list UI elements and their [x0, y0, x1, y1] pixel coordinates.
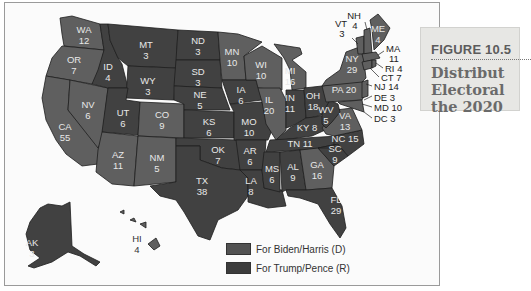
label-dc: DC 3: [374, 113, 396, 124]
label-mi-votes: 16: [285, 76, 296, 87]
label-al-abbr: AL: [287, 161, 299, 172]
dotted-divider: [431, 59, 531, 60]
legend-swatch-biden: [226, 243, 251, 255]
label-nd-votes: 3: [195, 46, 200, 57]
label-ks-votes: 6: [206, 127, 211, 138]
figure-title-line-1: Distribut: [431, 64, 519, 81]
label-ne-votes: 5: [197, 100, 202, 111]
label-az-abbr: AZ: [112, 149, 124, 160]
label-mo-abbr: MO: [241, 116, 256, 127]
label-or-votes: 7: [71, 65, 76, 76]
label-nj: NJ 14: [374, 81, 399, 92]
label-wy-abbr: WY: [140, 75, 156, 86]
label-nh-votes: 4: [352, 20, 357, 31]
figure-number: FIGURE 10.5: [431, 42, 519, 57]
label-wi-abbr: WI: [255, 59, 267, 70]
label-mt-abbr: MT: [139, 39, 153, 50]
label-ut-votes: 6: [120, 118, 125, 129]
legend-item-trump: For Trump/Pence (R): [226, 260, 350, 276]
label-tn: TN 11: [287, 138, 312, 149]
label-tx-votes: 38: [197, 186, 208, 197]
label-ca-abbr: CA: [58, 121, 72, 132]
label-ca-votes: 55: [60, 132, 71, 143]
label-ia-abbr: IA: [237, 84, 247, 95]
label-wi-votes: 10: [256, 70, 267, 81]
label-ms-abbr: MS: [265, 163, 279, 174]
label-ak-abbr: AK: [26, 237, 39, 248]
label-ks-abbr: KS: [203, 116, 216, 127]
label-ga-votes: 16: [312, 170, 323, 181]
label-or-abbr: OR: [67, 54, 81, 65]
label-oh-votes: 18: [308, 101, 319, 112]
label-nv-abbr: NV: [81, 99, 95, 110]
label-hi-votes: 4: [134, 244, 139, 255]
map-legend: For Biden/Harris (D) For Trump/Pence (R): [226, 241, 350, 279]
label-oh-abbr: OH: [306, 90, 320, 101]
legend-swatch-trump: [226, 262, 251, 274]
label-nm-abbr: NM: [150, 152, 165, 163]
label-fl-abbr: FL: [330, 194, 341, 205]
label-sd-votes: 3: [195, 77, 200, 88]
label-pa: PA 20: [332, 84, 357, 95]
label-ar-votes: 6: [247, 156, 252, 167]
label-mo-votes: 10: [244, 127, 255, 138]
label-in-votes: 11: [285, 103, 295, 114]
label-il-votes: 20: [264, 105, 275, 116]
label-nc: NC 15: [332, 133, 359, 144]
legend-item-biden: For Biden/Harris (D): [226, 241, 350, 257]
label-id-abbr: ID: [103, 61, 113, 72]
state-nj: [362, 80, 368, 98]
label-az-votes: 11: [113, 160, 123, 171]
label-hi-abbr: HI: [132, 233, 142, 244]
label-wa-votes: 12: [79, 35, 90, 46]
figure-title-line-2: Electoral: [431, 81, 519, 98]
label-wv-votes: 5: [323, 115, 328, 126]
label-ky: KY 8: [297, 122, 317, 133]
label-tx-abbr: TX: [196, 175, 209, 186]
state-ri: [372, 60, 376, 68]
label-nv-votes: 6: [85, 110, 90, 121]
label-md: MD 10: [374, 102, 402, 113]
label-ga-abbr: GA: [310, 159, 324, 170]
label-wv-abbr: WV: [318, 104, 334, 115]
label-ar-abbr: AR: [243, 145, 256, 156]
label-nd-abbr: ND: [191, 35, 205, 46]
label-ok-votes: 7: [215, 155, 220, 166]
label-il-abbr: IL: [265, 94, 273, 105]
label-ut-abbr: UT: [117, 107, 130, 118]
label-me-votes: 4: [375, 34, 380, 45]
label-id-votes: 4: [105, 72, 110, 83]
label-co-abbr: CO: [155, 109, 169, 120]
label-sc-votes: 9: [332, 154, 337, 165]
label-wa-abbr: WA: [77, 24, 93, 35]
label-la-votes: 8: [248, 186, 253, 197]
label-ny-votes: 29: [347, 64, 358, 75]
label-me-abbr: ME: [371, 23, 385, 34]
legend-label-trump: For Trump/Pence (R): [256, 263, 350, 274]
label-wy-votes: 3: [145, 86, 150, 97]
state-ak: [26, 202, 100, 268]
label-mn-votes: 10: [227, 57, 238, 68]
label-al-votes: 9: [290, 172, 295, 183]
label-mt-votes: 3: [143, 50, 148, 61]
state-hi: [120, 210, 160, 250]
label-ny-abbr: NY: [345, 53, 359, 64]
figure-title-line-3: the 2020: [431, 98, 519, 115]
label-sc-abbr: SC: [328, 143, 341, 154]
label-ms-votes: 6: [269, 174, 274, 185]
figure-caption-box: FIGURE 10.5 Distribut Electoral the 2020: [420, 27, 520, 111]
label-nm-votes: 5: [154, 163, 159, 174]
legend-label-biden: For Biden/Harris (D): [256, 244, 345, 255]
label-la-abbr: LA: [245, 175, 257, 186]
label-ia-votes: 6: [238, 95, 243, 106]
label-in-abbr: IN: [285, 92, 295, 103]
label-sd-abbr: SD: [191, 66, 204, 77]
label-va-votes: 13: [340, 121, 351, 132]
label-vt-votes: 3: [339, 28, 344, 39]
label-va-abbr: VA: [339, 110, 352, 121]
label-fl-votes: 29: [331, 205, 342, 216]
label-ne-abbr: NE: [193, 89, 206, 100]
label-co-votes: 9: [159, 120, 164, 131]
label-ak-votes: 3: [29, 248, 34, 259]
label-mi-abbr: MI: [285, 65, 296, 76]
